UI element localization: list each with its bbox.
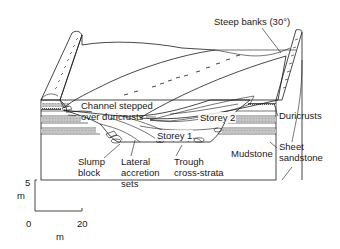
- right-bank-hatch: [283, 39, 298, 88]
- label-trough-2: cross-strata: [174, 167, 224, 178]
- label-slump-1: Slump: [78, 156, 105, 167]
- channel-block-diagram: Steep banks (30°) Channel stepped over d…: [0, 0, 340, 249]
- scale-horizontal-unit: m: [56, 231, 64, 242]
- label-lateral-1: Lateral: [121, 156, 150, 167]
- scale-bar: 5 m 0 20 m: [17, 177, 88, 242]
- label-lateral-2: accretion: [121, 167, 160, 178]
- label-sheet-1: Sheet: [279, 141, 304, 152]
- scale-vertical-unit: m: [17, 190, 25, 201]
- label-slump-2: block: [78, 167, 100, 178]
- flow-lines: [124, 55, 240, 95]
- scale-origin: 0: [26, 218, 31, 229]
- label-duricrusts: Duricrusts: [279, 110, 322, 121]
- label-steep-banks: Steep banks (30°): [214, 16, 290, 27]
- scale-horizontal-value: 20: [77, 218, 88, 229]
- label-trough-1: Trough: [174, 156, 204, 167]
- annotations: Steep banks (30°) Channel stepped over d…: [68, 16, 323, 189]
- label-sheet-2: sandstone: [279, 152, 323, 163]
- label-channel-stepped-2: over duricrusts: [81, 111, 144, 122]
- label-channel-stepped-1: Channel stepped: [81, 100, 153, 111]
- label-mudstone: Mudstone: [231, 148, 273, 159]
- label-lateral-3: sets: [121, 178, 139, 189]
- scale-vertical-value: 5: [25, 177, 30, 188]
- label-storey-2: Storey 2: [200, 112, 235, 123]
- label-storey-1: Storey 1: [157, 130, 192, 141]
